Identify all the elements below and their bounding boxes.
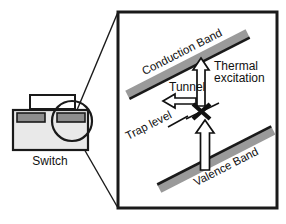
switch-label: Switch	[32, 154, 67, 168]
figure-canvas: Switch Conduction Band Valence Band Ther…	[0, 0, 286, 224]
band-diagram-svg: Switch Conduction Band Valence Band Ther…	[0, 0, 286, 224]
switch-device: Switch	[13, 95, 92, 168]
thermal-excitation-label-line2: excitation	[214, 71, 265, 85]
switch-contact-left	[17, 113, 45, 122]
tunnel-label: Tunnel	[169, 80, 205, 94]
switch-contact-right	[57, 113, 85, 122]
